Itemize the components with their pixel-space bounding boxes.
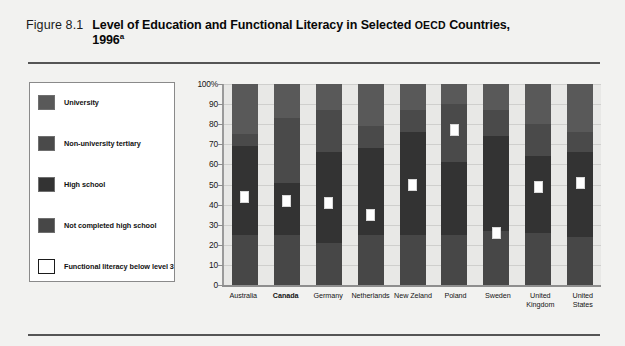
legend-swatch-icon	[38, 259, 55, 274]
bar-segment	[525, 84, 551, 124]
bar-segment	[525, 233, 551, 285]
functional-literacy-marker	[282, 195, 291, 207]
legend-item-label: Non-university tertiary	[64, 139, 141, 148]
legend-item-label: Functional literacy below level 3	[64, 262, 174, 271]
y-axis-tick	[218, 144, 223, 145]
legend-swatch-icon	[38, 95, 55, 110]
bar-segment	[525, 124, 551, 156]
y-axis-tick	[218, 245, 223, 246]
functional-literacy-marker	[576, 177, 585, 189]
y-axis-tick-label: 90	[209, 99, 218, 109]
bar-segment	[525, 156, 551, 232]
figure-title: Level of Education and Functional Litera…	[92, 18, 510, 48]
legend-item[interactable]: Not completed high school	[38, 218, 174, 233]
functional-literacy-marker	[450, 124, 459, 136]
functional-literacy-marker	[366, 209, 375, 221]
legend-swatch-icon	[38, 136, 55, 151]
bar-segment	[400, 235, 426, 285]
functional-literacy-marker	[408, 179, 417, 191]
bar-segment	[483, 136, 509, 230]
y-axis-tick	[218, 205, 223, 206]
bar-new-zeland[interactable]	[400, 84, 426, 285]
bar-segment	[441, 235, 467, 285]
x-axis-label-germany: Germany	[307, 291, 349, 300]
x-axis-label-united-kingdom: United Kingdom	[519, 291, 561, 309]
x-axis-baseline	[222, 285, 601, 287]
figure-container: Figure 8.1 Level of Education and Functi…	[0, 0, 625, 346]
legend-item-label: High school	[64, 180, 105, 189]
bar-segment	[400, 110, 426, 132]
bar-segment	[316, 243, 342, 285]
bar-poland[interactable]	[441, 84, 467, 285]
y-axis-tick	[218, 265, 223, 266]
y-axis-tick-label: 80	[209, 119, 218, 129]
chart-legend: UniversityNon-university tertiaryHigh sc…	[29, 82, 175, 282]
bar-segment	[567, 152, 593, 236]
legend-swatch-icon	[38, 177, 55, 192]
functional-literacy-marker	[240, 191, 249, 203]
bar-segment	[441, 84, 467, 104]
bar-segment	[274, 183, 300, 235]
y-axis-tick-label: 60	[209, 159, 218, 169]
bar-segment	[400, 84, 426, 110]
y-axis-tick	[218, 104, 223, 105]
y-axis-tick-label: 100%	[197, 79, 218, 89]
legend-item[interactable]: University	[38, 95, 174, 110]
y-axis-tick	[218, 84, 223, 85]
bar-segment	[358, 84, 384, 126]
bar-segment	[483, 231, 509, 285]
bar-segment	[567, 84, 593, 132]
x-axis-label-new-zeland: New Zeland	[392, 291, 434, 300]
bar-segment	[358, 148, 384, 234]
figure-number: Figure 8.1	[26, 18, 83, 32]
bar-netherlands[interactable]	[358, 84, 384, 285]
functional-literacy-marker	[324, 197, 333, 209]
y-axis-tick	[218, 124, 223, 125]
y-axis: 100%9080706050403020100	[184, 78, 218, 290]
bar-segment	[567, 237, 593, 285]
functional-literacy-marker	[534, 181, 543, 193]
y-axis-tick	[218, 164, 223, 165]
figure-title-row: Figure 8.1 Level of Education and Functi…	[26, 18, 606, 48]
bar-segment	[274, 118, 300, 182]
legend-item[interactable]: Non-university tertiary	[38, 136, 174, 151]
y-axis-tick	[218, 185, 223, 186]
bar-segment	[232, 235, 258, 285]
x-axis-labels: AustraliaCanadaGermanyNetherlandsNew Zel…	[222, 291, 604, 325]
x-axis-label-australia: Australia	[222, 291, 264, 300]
legend-item-label: Not completed high school	[64, 221, 156, 230]
plot-wrapper: 100%9080706050403020100	[184, 78, 604, 290]
y-axis-tick-label: 20	[209, 240, 218, 250]
bar-segment	[232, 84, 258, 134]
figure-title-year: 1996	[92, 33, 119, 47]
bar-segment	[358, 126, 384, 148]
functional-literacy-marker	[492, 227, 501, 239]
bar-canada[interactable]	[274, 84, 300, 285]
x-axis-label-poland: Poland	[434, 291, 476, 300]
figure-title-footnote-marker: a	[120, 32, 124, 41]
figure-title-part2: Countries,	[446, 18, 510, 32]
legend-item[interactable]: Functional literacy below level 3	[38, 259, 174, 274]
bar-segment	[232, 134, 258, 146]
bar-segment	[567, 132, 593, 152]
y-axis-tick	[218, 225, 223, 226]
figure-title-part1: Level of Education and Functional Litera…	[92, 18, 414, 32]
legend-item[interactable]: High school	[38, 177, 174, 192]
x-axis-label-netherlands: Netherlands	[349, 291, 391, 300]
bar-segment	[274, 84, 300, 118]
bar-australia[interactable]	[232, 84, 258, 285]
bar-segment	[441, 162, 467, 234]
bar-sweden[interactable]	[483, 84, 509, 285]
y-axis-tick-label: 10	[209, 260, 218, 270]
bar-germany[interactable]	[316, 84, 342, 285]
horizontal-rule-top	[28, 62, 600, 64]
bar-segment	[316, 110, 342, 152]
bar-segment	[483, 84, 509, 110]
y-axis-tick-label: 40	[209, 200, 218, 210]
bar-segment	[316, 84, 342, 110]
bar-united-states[interactable]	[567, 84, 593, 285]
legend-item-label: University	[64, 98, 99, 107]
bar-segment	[358, 235, 384, 285]
bar-united-kingdom[interactable]	[525, 84, 551, 285]
y-axis-tick-label: 70	[209, 139, 218, 149]
